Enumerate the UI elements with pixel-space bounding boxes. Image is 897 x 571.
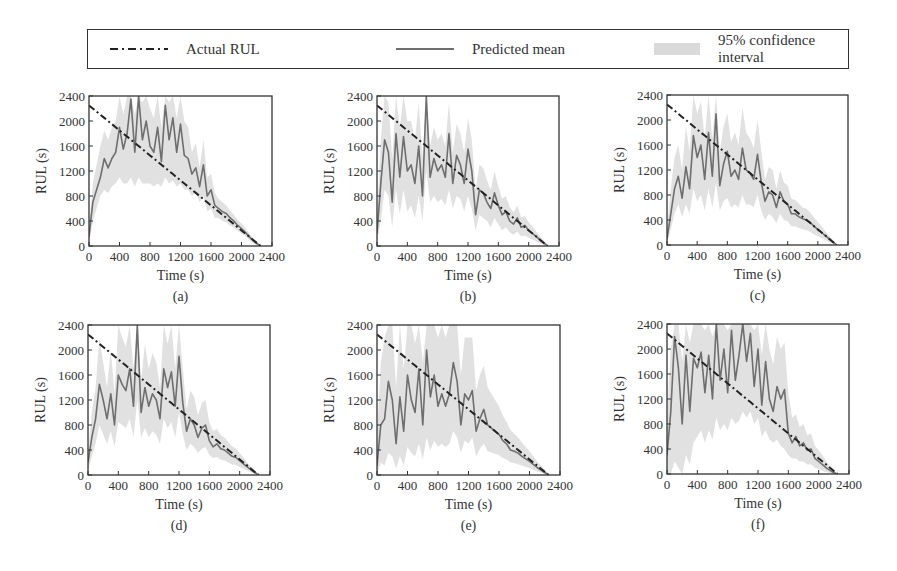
panel-label: (b) xyxy=(460,289,477,305)
x-tick-label: 2400 xyxy=(835,248,861,263)
y-tick-label: 800 xyxy=(644,188,664,203)
y-tick-label: 1600 xyxy=(347,368,373,383)
x-tick-label: 0 xyxy=(374,249,381,264)
y-tick-label: 2000 xyxy=(59,114,85,129)
x-axis-label: Time (s) xyxy=(155,497,203,513)
y-tick-label: 2400 xyxy=(637,88,663,103)
y-tick-label: 2000 xyxy=(58,343,84,358)
y-tick-label: 1200 xyxy=(59,164,85,179)
panel-label: (c) xyxy=(750,288,766,304)
x-tick-label: 2000 xyxy=(227,478,253,493)
x-tick-label: 1600 xyxy=(485,249,511,264)
y-tick-label: 0 xyxy=(78,468,85,483)
y-tick-label: 800 xyxy=(354,418,374,433)
y-tick-label: 2000 xyxy=(637,342,663,357)
y-tick-label: 0 xyxy=(367,468,374,483)
x-tick-label: 800 xyxy=(140,249,160,264)
y-tick-label: 1600 xyxy=(58,368,84,383)
panel-label: (f) xyxy=(751,517,765,533)
x-tick-label: 1600 xyxy=(198,249,224,264)
y-tick-label: 2400 xyxy=(59,89,85,104)
x-tick-label: 2000 xyxy=(806,477,832,492)
y-tick-label: 1200 xyxy=(347,393,373,408)
confidence-band xyxy=(377,325,549,475)
y-axis-label: RUL (s) xyxy=(34,148,50,194)
plot-area xyxy=(88,325,259,475)
x-tick-label: 1200 xyxy=(168,249,194,264)
subplot-d: 0400800120016002000240004008001200160020… xyxy=(33,318,283,535)
x-tick-label: 2400 xyxy=(546,249,572,264)
y-tick-label: 1600 xyxy=(59,139,85,154)
x-tick-label: 2000 xyxy=(805,248,831,263)
x-tick-label: 400 xyxy=(398,478,418,493)
y-tick-label: 800 xyxy=(66,189,86,204)
x-tick-label: 800 xyxy=(428,249,448,264)
confidence-band xyxy=(89,96,261,246)
x-tick-label: 1200 xyxy=(455,249,481,264)
plot-area xyxy=(667,324,838,474)
x-tick-label: 400 xyxy=(688,477,708,492)
x-tick-label: 1200 xyxy=(456,478,482,493)
x-tick-label: 2000 xyxy=(516,249,542,264)
x-tick-label: 1200 xyxy=(745,477,771,492)
x-tick-label: 800 xyxy=(139,478,159,493)
plot-area xyxy=(667,95,837,245)
x-tick-label: 2400 xyxy=(547,478,573,493)
x-tick-label: 0 xyxy=(86,249,93,264)
y-axis-label: RUL (s) xyxy=(612,376,628,422)
y-tick-label: 2400 xyxy=(347,89,373,104)
x-tick-label: 800 xyxy=(718,477,738,492)
x-tick-label: 1600 xyxy=(775,248,801,263)
subplot-b: 0400800120016002000240004008001200160020… xyxy=(322,89,572,306)
x-tick-label: 0 xyxy=(664,477,671,492)
y-tick-label: 800 xyxy=(65,418,85,433)
x-tick-label: 400 xyxy=(110,249,130,264)
x-tick-label: 1200 xyxy=(745,248,771,263)
subplot-a: 0400800120016002000240004008001200160020… xyxy=(34,89,285,306)
x-tick-label: 2400 xyxy=(257,478,283,493)
figure-canvas: 0400800120016002000240004008001200160020… xyxy=(0,0,897,571)
x-tick-label: 1600 xyxy=(196,478,222,493)
y-tick-label: 0 xyxy=(367,239,374,254)
y-tick-label: 1200 xyxy=(637,392,663,407)
subplot-c: 0400800120016002000240004008001200160020… xyxy=(612,88,861,305)
y-tick-label: 2000 xyxy=(637,113,663,128)
y-tick-label: 1200 xyxy=(637,163,663,178)
x-tick-label: 0 xyxy=(374,478,381,493)
x-tick-label: 800 xyxy=(718,248,738,263)
confidence-band xyxy=(88,325,259,475)
y-tick-label: 1600 xyxy=(637,138,663,153)
y-tick-label: 0 xyxy=(79,239,86,254)
x-tick-label: 400 xyxy=(109,478,129,493)
y-tick-label: 400 xyxy=(354,443,374,458)
y-tick-label: 2000 xyxy=(347,114,373,129)
x-axis-label: Time (s) xyxy=(445,497,493,513)
subplot-f: 0400800120016002000240004008001200160020… xyxy=(612,317,862,534)
x-tick-label: 1600 xyxy=(775,477,801,492)
y-axis-label: RUL (s) xyxy=(612,147,628,193)
panel-label: (d) xyxy=(171,518,188,534)
y-tick-label: 400 xyxy=(65,443,85,458)
y-tick-label: 2400 xyxy=(58,318,84,333)
y-tick-label: 0 xyxy=(657,467,664,482)
y-tick-label: 800 xyxy=(644,417,664,432)
x-tick-label: 2400 xyxy=(836,477,862,492)
x-tick-label: 800 xyxy=(428,478,448,493)
y-tick-label: 1600 xyxy=(637,367,663,382)
y-tick-label: 400 xyxy=(66,214,86,229)
y-tick-label: 2000 xyxy=(347,343,373,358)
x-tick-label: 2400 xyxy=(259,249,285,264)
y-tick-label: 1200 xyxy=(58,393,84,408)
y-tick-label: 400 xyxy=(644,213,664,228)
x-tick-label: 1600 xyxy=(486,478,512,493)
plot-area xyxy=(89,96,261,246)
y-tick-label: 0 xyxy=(657,238,664,253)
panel-label: (a) xyxy=(173,289,189,305)
x-axis-label: Time (s) xyxy=(444,268,492,284)
x-tick-label: 0 xyxy=(85,478,92,493)
y-tick-label: 1200 xyxy=(347,164,373,179)
x-tick-label: 2000 xyxy=(517,478,543,493)
x-axis-label: Time (s) xyxy=(734,496,782,512)
y-tick-label: 400 xyxy=(354,214,374,229)
x-tick-label: 2000 xyxy=(229,249,255,264)
